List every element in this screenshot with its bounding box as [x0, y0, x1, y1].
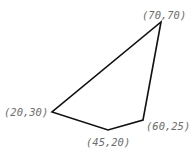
- vertex-label-45-20: (45,20): [86, 136, 130, 148]
- vertex-label-70-70: (70,70): [142, 9, 186, 21]
- polygon-diagram: (70,70) (60,25) (45,20) (20,30): [0, 0, 192, 156]
- vertex-label-60-25: (60,25): [146, 120, 190, 132]
- vertex-label-20-30: (20,30): [4, 106, 48, 118]
- quadrilateral-shape: [52, 22, 161, 130]
